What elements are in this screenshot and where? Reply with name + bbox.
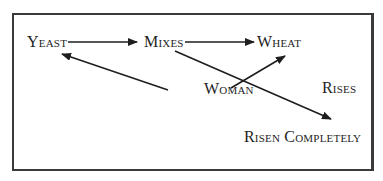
node-rises: Rises — [322, 80, 356, 96]
arrow-woman-to-yeast — [62, 54, 168, 90]
node-wheat: Wheat — [257, 34, 301, 50]
node-risen-completely: Risen Completely — [244, 129, 361, 145]
node-mixes: Mixes — [144, 34, 184, 50]
node-yeast: Yeast — [27, 34, 67, 50]
node-woman: Woman — [204, 81, 254, 97]
